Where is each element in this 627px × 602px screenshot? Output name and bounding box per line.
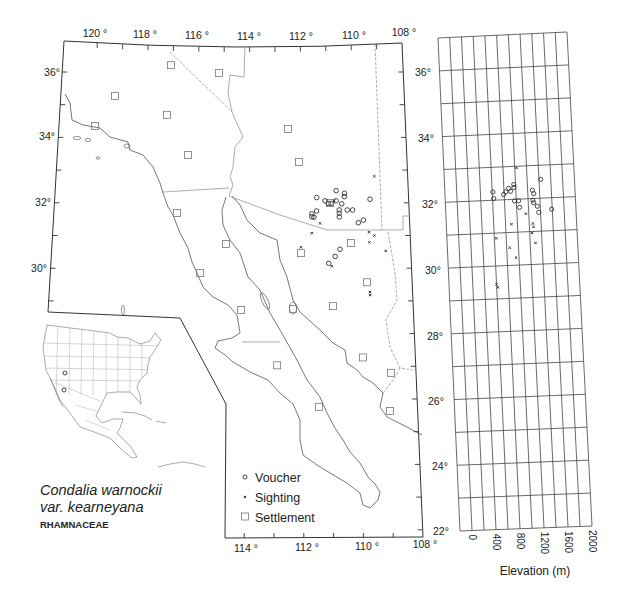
latitude-grid-line bbox=[439, 65, 568, 71]
map-ticks bbox=[49, 43, 423, 538]
elevation-points bbox=[491, 167, 554, 289]
elevation-grid-line bbox=[555, 33, 580, 527]
latitude-grid-line bbox=[450, 295, 581, 300]
elevation-voucher-point bbox=[501, 192, 505, 196]
sighting-marker bbox=[369, 291, 371, 293]
elevation-sighting-point bbox=[534, 242, 536, 244]
family-name: RHAMNACEAE bbox=[40, 519, 109, 530]
elevation-sighting-point bbox=[515, 256, 517, 258]
elevation-grid-line bbox=[508, 35, 532, 529]
settlement-marker bbox=[164, 111, 171, 118]
channel-island bbox=[96, 157, 100, 159]
elevation-grid-line bbox=[567, 32, 592, 526]
lat-label-right: 22° bbox=[433, 525, 449, 537]
colorado-river bbox=[228, 46, 245, 196]
sighting-marker bbox=[368, 231, 370, 233]
voucher-marker bbox=[356, 220, 361, 225]
latitude-grid-line bbox=[448, 263, 578, 269]
elevation-sighting-point bbox=[525, 212, 527, 214]
voucher-marker bbox=[338, 247, 343, 252]
voucher-marker bbox=[350, 208, 355, 213]
latitude-grid-line bbox=[456, 427, 587, 432]
legend-sighting-label: Sighting bbox=[255, 491, 300, 505]
inset-locator-circle bbox=[63, 371, 67, 375]
inset-locator-circle bbox=[62, 388, 66, 392]
elevation-grid-line bbox=[461, 37, 484, 530]
lat-label-right: 26° bbox=[428, 395, 444, 407]
elevation-sighting-point bbox=[508, 246, 510, 248]
latitude-grid-line bbox=[447, 230, 577, 236]
elevation-tick-label: 1200 bbox=[539, 532, 550, 555]
lon-label-bottom: 112 ° bbox=[295, 541, 319, 553]
species-name: Condalia warnockii bbox=[40, 482, 162, 498]
inset-continent-outline bbox=[43, 325, 161, 458]
elevation-latitude-chart: 0400800120016002000 Elevation (m) bbox=[438, 32, 598, 578]
voucher-marker bbox=[345, 208, 350, 213]
voucher-marker bbox=[314, 195, 319, 200]
voucher-marker bbox=[368, 197, 373, 202]
lat-label-right: 28° bbox=[427, 330, 443, 342]
elevation-voucher-point bbox=[550, 207, 554, 211]
us-mexico-border-west bbox=[163, 188, 229, 192]
elevation-tick-label: 400 bbox=[491, 534, 502, 551]
latitude-grid-line bbox=[444, 164, 574, 170]
latitude-grid-line bbox=[453, 361, 584, 366]
lon-label-bottom: 108 ° bbox=[413, 538, 438, 550]
pacific-and-baja-coastline bbox=[65, 94, 380, 508]
elevation-sighting-point bbox=[532, 226, 534, 228]
distribution-map: 120 ° 118 ° 116 ° 114 ° 112 ° 110 ° 108 … bbox=[31, 26, 449, 554]
sighting-marker bbox=[311, 232, 313, 234]
elevation-grid-line bbox=[532, 34, 556, 528]
species-variety: var. kearneyana bbox=[40, 499, 143, 515]
species-title-block: Condalia warnockii var. kearneyana RHAMN… bbox=[40, 482, 162, 530]
arizona-new-mexico-border bbox=[375, 44, 382, 230]
map-legend: Voucher Sighting Settlement bbox=[242, 471, 316, 525]
settlement-marker bbox=[284, 125, 291, 132]
legend-voucher-label: Voucher bbox=[255, 471, 301, 485]
settlement-marker bbox=[298, 250, 305, 257]
elevation-voucher-point bbox=[491, 190, 495, 194]
elevation-sighting-point bbox=[531, 232, 533, 234]
guadalupe-island bbox=[122, 305, 125, 315]
elevation-voucher-point bbox=[531, 201, 535, 205]
elevation-grid-line bbox=[497, 35, 520, 528]
california-nevada-border bbox=[170, 52, 232, 112]
settlement-marker bbox=[112, 92, 119, 99]
latitude-grid-line bbox=[454, 394, 585, 399]
voucher-marker bbox=[326, 261, 331, 266]
lat-label-left: 36° bbox=[44, 66, 60, 78]
sighting-marker bbox=[373, 175, 375, 177]
map-sightings bbox=[300, 175, 387, 296]
lon-label-bottom: 114 ° bbox=[234, 542, 258, 554]
inset-south-america-coast bbox=[158, 462, 205, 467]
lon-label-top: 118 ° bbox=[133, 28, 157, 40]
sighting-marker bbox=[373, 234, 375, 236]
settlement-marker bbox=[92, 122, 99, 129]
legend-settlement-label: Settlement bbox=[255, 511, 315, 525]
lon-label-bottom: 110 ° bbox=[355, 540, 379, 552]
settlement-marker bbox=[296, 158, 303, 165]
voucher-marker bbox=[333, 254, 338, 259]
sonora-sinaloa-coastline bbox=[232, 196, 422, 435]
elevation-tick-labels: 0400800120016002000 bbox=[467, 530, 598, 555]
map-frame bbox=[48, 41, 423, 538]
elevation-sighting-point bbox=[515, 167, 517, 169]
elevation-tick-label: 0 bbox=[467, 535, 478, 541]
elevation-grid-line bbox=[450, 37, 472, 530]
elevation-grid-line bbox=[438, 38, 460, 531]
elevation-sighting-point bbox=[495, 237, 497, 239]
elevation-sighting-point bbox=[510, 223, 512, 225]
elevation-tick-label: 800 bbox=[515, 533, 526, 550]
settlement-marker bbox=[388, 369, 395, 376]
distribution-figure: 120 ° 118 ° 116 ° 114 ° 112 ° 110 ° 108 … bbox=[0, 0, 627, 602]
lat-label-left: 32° bbox=[35, 196, 51, 208]
elevation-grid-line bbox=[485, 36, 508, 529]
voucher-marker bbox=[339, 201, 344, 206]
latitude-grid-line bbox=[438, 32, 567, 38]
lon-label-top: 116 ° bbox=[185, 29, 209, 41]
legend-settlement-icon bbox=[242, 513, 249, 520]
channel-island bbox=[73, 137, 81, 140]
settlement-marker bbox=[315, 403, 322, 410]
settlement-marker bbox=[363, 279, 370, 286]
elevation-voucher-point bbox=[517, 205, 521, 209]
